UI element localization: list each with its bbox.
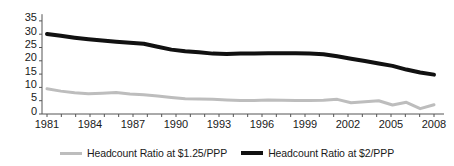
y-tick-label: 15 xyxy=(25,65,37,77)
series-line-headcount-125 xyxy=(47,89,434,109)
legend-swatch-icon xyxy=(60,152,82,155)
legend-label: Headcount Ratio at $1.25/PPP xyxy=(87,147,227,159)
x-tick-label: 1993 xyxy=(207,118,231,130)
y-tick-label: 20 xyxy=(25,51,37,63)
legend-entry-headcount-2: Headcount Ratio at $2/PPP xyxy=(241,147,394,159)
x-tick-label: 1999 xyxy=(293,118,317,130)
series-line-headcount-2 xyxy=(47,34,434,75)
y-tick-label: 5 xyxy=(31,91,37,103)
x-tick-label: 1984 xyxy=(78,118,102,130)
legend-entry-headcount-125: Headcount Ratio at $1.25/PPP xyxy=(60,147,227,159)
y-tick-label: 30 xyxy=(25,25,37,37)
x-tick-label: 1981 xyxy=(35,118,59,130)
y-tick-label: 25 xyxy=(25,38,37,50)
legend-swatch-icon xyxy=(241,151,263,155)
x-tick-label: 2002 xyxy=(336,118,360,130)
x-tick-label: 2005 xyxy=(379,118,403,130)
x-tick-label: 1990 xyxy=(164,118,188,130)
chart-legend: Headcount Ratio at $1.25/PPP Headcount R… xyxy=(0,140,454,166)
x-tick-label: 1987 xyxy=(121,118,145,130)
line-chart: 0 5 10 15 20 25 30 35 1981 1984 1987 xyxy=(0,0,454,166)
x-tick-label: 1996 xyxy=(250,118,274,130)
chart-plot-area: 0 5 10 15 20 25 30 35 1981 1984 1987 xyxy=(0,0,454,140)
x-tick-label: 2008 xyxy=(422,118,446,130)
y-tick-label: 35 xyxy=(25,11,37,23)
y-tick-label: 10 xyxy=(25,78,37,90)
y-tick-label: 0 xyxy=(31,105,37,117)
legend-label: Headcount Ratio at $2/PPP xyxy=(268,147,394,159)
